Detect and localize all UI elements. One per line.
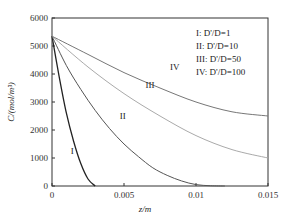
- concentration-chart: 0100020003000400050006000 00.0050.010.01…: [0, 0, 283, 221]
- y-tick-label: 4000: [30, 69, 49, 79]
- y-axis-label: C/(mol/m³): [6, 82, 16, 122]
- y-tick-label: 2000: [30, 125, 49, 135]
- curve-label-III: III: [146, 80, 155, 90]
- y-tick-label: 1000: [30, 153, 49, 163]
- legend-item-III: III: D'/D=50: [196, 54, 241, 64]
- y-tick-label: 0: [44, 181, 49, 191]
- y-tick-label: 6000: [30, 13, 49, 23]
- legend-item-II: II: D'/D=10: [196, 41, 238, 51]
- legend-item-I: I: D'/D=1: [196, 28, 230, 38]
- y-tick-label: 5000: [30, 41, 49, 51]
- x-tick-label: 0.01: [188, 190, 204, 200]
- curve-label-I: I: [71, 146, 74, 156]
- curve-label-IV: IV: [170, 62, 180, 72]
- x-tick-label: 0.005: [114, 190, 135, 200]
- y-axis-ticks: 0100020003000400050006000: [30, 13, 55, 191]
- legend-item-IV: IV: D'/D=100: [196, 67, 246, 77]
- curve-label-II: II: [120, 111, 126, 121]
- x-axis-label: z/m: [138, 204, 152, 214]
- x-tick-label: 0.015: [258, 190, 279, 200]
- legend: I: D'/D=1II: D'/D=10III: D'/D=50IV: D'/D…: [196, 28, 246, 77]
- x-tick-label: 0: [50, 190, 55, 200]
- series-I-line: [52, 36, 95, 186]
- y-tick-label: 3000: [30, 97, 49, 107]
- curve-labels: IIIIIIIV: [71, 62, 180, 156]
